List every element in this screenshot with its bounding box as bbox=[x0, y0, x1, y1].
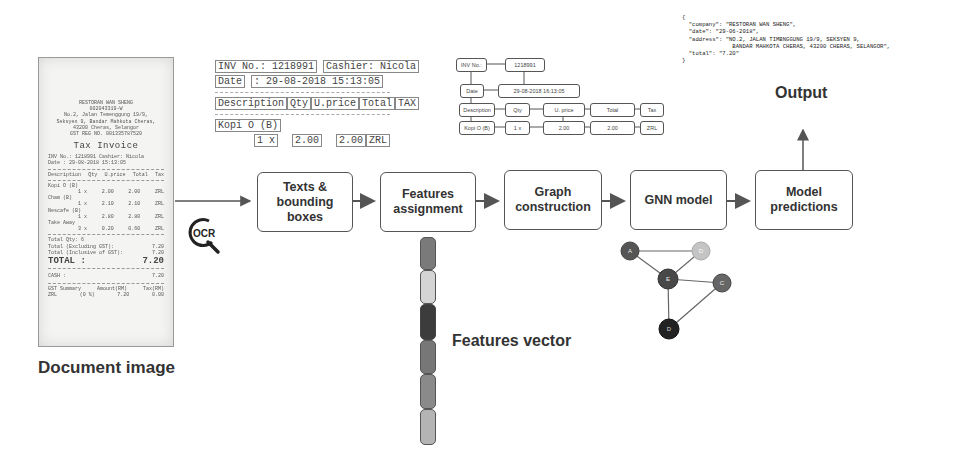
ocr-bbox-inv-no: INV No.: 1218991 bbox=[215, 60, 317, 73]
svg-text:D: D bbox=[667, 326, 672, 332]
graph-node: ZRL bbox=[640, 121, 664, 135]
ocr-bbox-cashier: Cashier: Nicola bbox=[323, 60, 419, 73]
json-line: "date": "29-06-2018", bbox=[682, 28, 890, 35]
graph-node: Kopi O (B) bbox=[459, 121, 495, 135]
graph-node: Date bbox=[460, 84, 484, 98]
graph-node: 2.00 bbox=[543, 121, 585, 135]
divider bbox=[215, 92, 390, 93]
step-label: construction bbox=[515, 200, 591, 215]
divider bbox=[215, 114, 390, 115]
feature-segment bbox=[420, 304, 436, 340]
ocr-bbox-item-tax: ZRL bbox=[366, 134, 390, 147]
step-label: Features bbox=[393, 187, 462, 202]
output-label: Output bbox=[775, 84, 827, 102]
features-vector-label: Features vector bbox=[452, 332, 571, 350]
graph-node: 2.00 bbox=[590, 121, 635, 135]
feature-segment bbox=[420, 340, 436, 374]
svg-text:D: D bbox=[699, 248, 704, 254]
feature-segment bbox=[420, 237, 436, 270]
step-label: Texts & bbox=[277, 180, 334, 195]
ocr-text-crop: INV No.: 1218991 Cashier: Nicola Date : … bbox=[215, 60, 390, 149]
step-label: GNN model bbox=[644, 193, 712, 208]
feature-segment bbox=[420, 270, 436, 304]
step-gnn-model: GNN model bbox=[630, 170, 727, 230]
json-line: { bbox=[682, 14, 890, 21]
json-output: { "company": "RESTORAN WAN SHENG", "date… bbox=[682, 14, 890, 64]
step-texts-bounding-boxes: Texts & bounding boxes bbox=[257, 172, 353, 232]
ocr-bbox-column: Description bbox=[215, 97, 287, 110]
ocr-bbox-item-name: Kopi O (B) bbox=[215, 119, 281, 132]
json-line: BANDAR MAHKOTA CHERAS, 43200 CHERAS, SEL… bbox=[682, 43, 890, 50]
features-vector bbox=[420, 237, 436, 445]
svg-text:A: A bbox=[628, 248, 632, 254]
feature-segment bbox=[420, 409, 436, 445]
ocr-bbox-item-qty: 1 x bbox=[254, 134, 278, 147]
gnn-node-d-dark: D bbox=[659, 319, 679, 339]
gnn-node-c: C bbox=[713, 274, 731, 292]
gnn-node-d-light: D bbox=[692, 242, 710, 260]
json-line: } bbox=[682, 57, 890, 64]
step-label: Model bbox=[770, 185, 837, 200]
step-label: predictions bbox=[770, 200, 837, 215]
step-label: boxes bbox=[277, 210, 334, 225]
graph-node: Description bbox=[459, 103, 495, 117]
ocr-label: OCR bbox=[193, 228, 216, 239]
graph-node: U. price bbox=[543, 103, 585, 117]
ocr-bbox-item-total: 2.00 bbox=[336, 134, 366, 147]
svg-text:E: E bbox=[666, 276, 670, 282]
ocr-bbox-column: TAX bbox=[395, 97, 419, 110]
gnn-node-e: E bbox=[658, 269, 678, 289]
graph-node: Qty bbox=[505, 103, 530, 117]
ocr-bbox-column: Total bbox=[359, 97, 395, 110]
ocr-bbox-date-value: : 29-08-2018 15:13:05 bbox=[251, 75, 383, 88]
graph-node: INV No.: bbox=[456, 58, 487, 72]
graph-node: 1218991 bbox=[505, 58, 545, 72]
step-features-assignment: Features assignment bbox=[380, 172, 476, 232]
json-line: "address": "NO.2, JALAN TIMBNGGUNG 19/9,… bbox=[682, 36, 890, 43]
step-model-predictions: Model predictions bbox=[755, 170, 853, 230]
ocr-bbox-column: U.price bbox=[311, 97, 359, 110]
ocr-magnifier-icon: OCR bbox=[185, 215, 225, 255]
graph-node: 29-08-2018 16:13:05 bbox=[498, 84, 580, 98]
feature-segment bbox=[420, 374, 436, 409]
step-label: assignment bbox=[393, 202, 462, 217]
json-line: "total": "7.20" bbox=[682, 50, 890, 57]
step-label: Graph bbox=[515, 185, 591, 200]
graph-node: Tax bbox=[640, 103, 664, 117]
json-line: "company": "RESTORAN WAN SHENG", bbox=[682, 21, 890, 28]
ocr-bbox-column: Qty bbox=[287, 97, 311, 110]
ocr-bbox-date-label: Date bbox=[215, 75, 245, 88]
graph-node: 1 x bbox=[505, 121, 530, 135]
svg-text:C: C bbox=[720, 280, 725, 286]
step-label: bounding bbox=[277, 195, 334, 210]
gnn-graph: A D E C D bbox=[600, 225, 760, 355]
graph-node: Total bbox=[590, 103, 635, 117]
step-graph-construction: Graph construction bbox=[504, 170, 602, 230]
ocr-bbox-item-price: 2.00 bbox=[292, 134, 322, 147]
gnn-node-a: A bbox=[621, 242, 639, 260]
